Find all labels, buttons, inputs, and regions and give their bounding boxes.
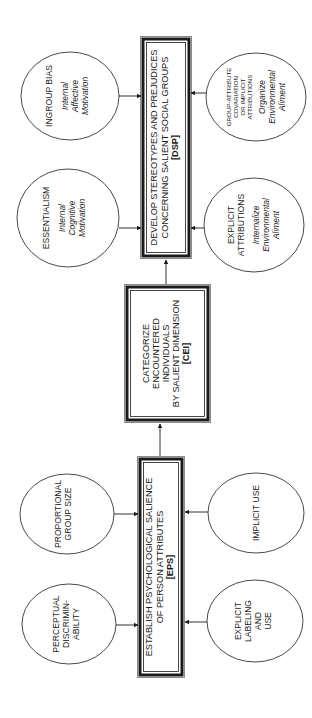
group-attribute-sub-2: Environmental: [267, 69, 277, 124]
group-attribute-sub-3: Aliment: [277, 82, 287, 112]
ellipse-explicit-labeling: EXPLICIT LABELING AND USE: [207, 580, 303, 662]
perceptual-line-2: DISCRIMIN-: [61, 600, 71, 648]
dsp-label-line-2: CONCERNING SALIENT SOCIAL GROUPS: [160, 57, 170, 239]
cei-label-line-4: BY SALIENT DIMENSION: [171, 300, 181, 407]
ellipse-essentialism: ESSENTIALISM Internal Cognitive Motivati…: [17, 169, 119, 267]
ingroup-bias-sub-1: Internal: [60, 81, 70, 110]
essentialism-sub-2: Cognitive: [67, 200, 77, 235]
ellipse-perceptual-discriminability: PERCEPTUAL DISCRIMIN- ABILITY: [22, 584, 116, 664]
box-dsp: DEVELOP STEREOTYPES AND PREJUDICES CONCE…: [141, 37, 192, 259]
eps-label-line-2: OF PERSON ATTRIBUTES: [155, 511, 165, 624]
explicit-attributions-sub-2: Environmental: [261, 197, 271, 252]
proportional-line-2: GROUP SIZE: [63, 487, 73, 540]
ellipse-explicit-attributions: EXPLICIT ATTRIBUTIONS Internalize Enviro…: [204, 178, 304, 272]
ingroup-bias-sub-2: Affective: [70, 80, 80, 113]
implicit-use-label: IMPLICIT USE: [251, 485, 261, 541]
eps-label-line-1: ESTABLISH PSYCHOLOGICAL SALIENCE: [144, 478, 154, 657]
perceptual-line-3: ABILITY: [71, 608, 81, 640]
proportional-line-1: PROPORTIONAL: [53, 480, 63, 548]
explicit-attributions-sub-3: Aliment: [271, 210, 281, 240]
perceptual-line-1: PERCEPTUAL: [51, 595, 61, 653]
group-attribute-sub-1: Organize: [257, 80, 267, 114]
essentialism-sub-1: Internal: [57, 203, 67, 232]
dsp-code: [DSP]: [170, 135, 180, 160]
ellipse-proportional-group-size: PROPORTIONAL GROUP SIZE: [20, 474, 114, 554]
cei-label-line-2: ENCOUNTERED: [151, 318, 161, 389]
eps-code: [EPS]: [165, 555, 175, 580]
explicit-attributions-line-2: ATTRIBUTIONS: [236, 194, 246, 257]
cei-label-line-3: INDIVIDUALS: [161, 325, 171, 383]
box-eps: ESTABLISH PSYCHOLOGICAL SALIENCE OF PERS…: [138, 457, 185, 678]
ellipse-ingroup-bias: INGROUP BIAS Internal Affective Motivati…: [21, 52, 119, 140]
ellipse-implicit-use: IMPLICIT USE: [208, 473, 304, 553]
explicit-attributions-line-1: EXPLICIT: [226, 205, 236, 244]
diagram-canvas: DEVELOP STEREOTYPES AND PREJUDICES CONCE…: [0, 0, 312, 718]
group-attribute-line-4: ATTRIBUTIONS: [246, 75, 253, 120]
box-cei: CATEGORIZE ENCOUNTERED INDIVIDUALS BY SA…: [125, 285, 211, 423]
explicit-labeling-line-3: AND: [253, 612, 263, 630]
dsp-label-line-1: DEVELOP STEREOTYPES AND PREJUDICES: [149, 50, 159, 246]
explicit-labeling-line-1: EXPLICIT: [233, 601, 243, 640]
explicit-labeling-line-2: LABELING: [243, 600, 253, 642]
essentialism-label: ESSENTIALISM: [41, 187, 51, 250]
explicit-attributions-sub-1: Internalize: [251, 205, 261, 244]
group-attribute-line-3: OR IMPLICIT: [239, 78, 246, 115]
explicit-labeling-line-4: USE: [263, 612, 273, 630]
cei-label-line-1: CATEGORIZE: [141, 324, 151, 383]
group-attribute-line-1: GROUP-ATTRIBUTE: [225, 68, 232, 127]
ingroup-bias-label: INGROUP BIAS: [44, 65, 54, 127]
essentialism-sub-3: Motivation: [77, 199, 87, 238]
ellipse-group-attribute: GROUP-ATTRIBUTE COVARIATION OR IMPLICIT …: [206, 53, 306, 141]
group-attribute-line-2: COVARIATION: [232, 76, 239, 118]
ingroup-bias-sub-3: Motivation: [80, 77, 90, 116]
cei-code: [CEI]: [181, 343, 191, 364]
